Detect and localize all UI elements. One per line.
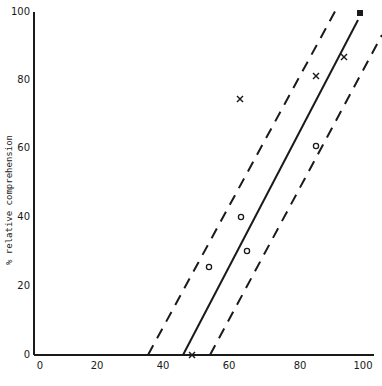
circle-marker	[206, 264, 211, 269]
x-tick-labels: 0 20 40 60 80 100	[37, 360, 373, 371]
svg-text:100: 100	[353, 360, 372, 371]
svg-text:80: 80	[17, 74, 30, 85]
regression-line	[183, 20, 358, 355]
svg-text:40: 40	[157, 360, 170, 371]
svg-text:60: 60	[223, 360, 236, 371]
cross-marker	[313, 73, 319, 79]
circle-markers	[206, 143, 318, 269]
svg-text:80: 80	[294, 360, 307, 371]
svg-text:60: 60	[17, 142, 30, 153]
svg-text:0: 0	[37, 360, 43, 371]
svg-text:40: 40	[17, 211, 30, 222]
cross-marker	[341, 54, 347, 60]
svg-text:20: 20	[17, 280, 30, 291]
upper-bound-dashed-line	[148, 6, 338, 355]
svg-text:0: 0	[24, 349, 30, 360]
scatter-chart: 0 20 40 60 80 100 0 20 40 60 80 100 % re…	[0, 0, 382, 386]
svg-text:100: 100	[11, 6, 30, 17]
filled-square-marker	[357, 10, 363, 16]
cross-markers	[189, 54, 347, 358]
cross-marker	[237, 96, 243, 102]
circle-marker	[244, 248, 249, 253]
y-axis-label: % relative comprehension	[4, 135, 14, 265]
circle-marker	[238, 214, 243, 219]
circle-marker	[313, 143, 318, 148]
svg-text:20: 20	[91, 360, 104, 371]
